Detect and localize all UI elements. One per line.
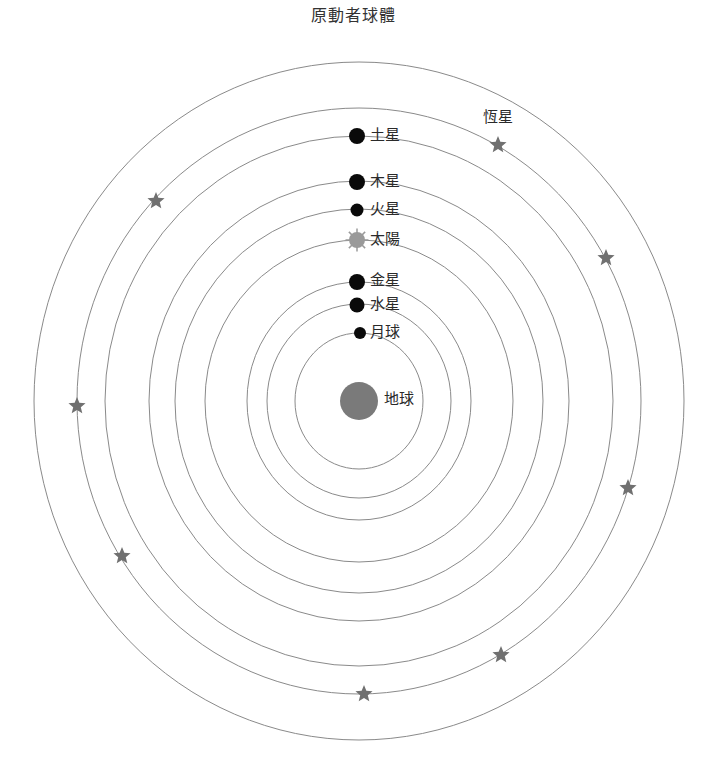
venus-icon [349,274,365,290]
fixed-star-icon [147,192,164,208]
earth-label: 地球 [384,392,414,407]
fixed-star-icon [619,479,636,495]
sun-label: 太陽 [370,232,400,247]
geocentric-diagram [0,0,710,779]
sun-icon [346,229,369,252]
mars-icon [351,204,364,217]
mercury-label: 水星 [370,297,400,312]
fixed-star-icon [597,249,614,265]
venus-label: 金星 [370,273,400,288]
prime-mover-title: 原動者球體 [311,8,396,24]
fixed-stars-label: 恆星 [483,110,513,125]
fixed-star-icon [355,685,372,701]
moon-icon [354,327,366,339]
earth-icon [340,382,378,420]
jupiter-label: 木星 [370,174,400,189]
moon-label: 月球 [370,325,400,340]
saturn-label: 土星 [370,128,400,143]
mercury-icon [350,298,365,313]
fixed-star-icon [492,646,509,662]
saturn-icon [349,128,365,144]
mars-label: 火星 [370,202,400,217]
jupiter-icon [349,174,365,190]
